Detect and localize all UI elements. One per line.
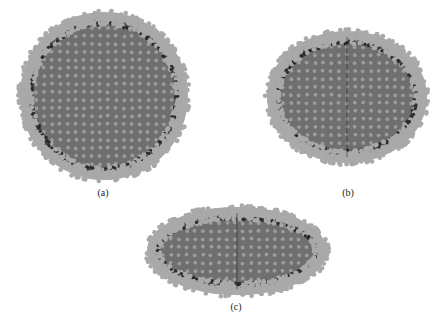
caption-c: (c): [230, 302, 241, 312]
particle-shape-c: [144, 203, 331, 298]
particle-shape-a: [16, 9, 191, 184]
particle-shapes-canvas: [0, 0, 446, 328]
particle-shape-b: [263, 27, 430, 167]
caption-b: (b): [342, 188, 354, 198]
caption-a: (a): [97, 188, 108, 198]
